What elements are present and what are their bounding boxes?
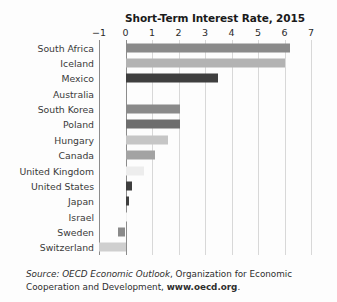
x-axis-tick-labels: −101234567 [99, 27, 311, 40]
x-tick-label: 3 [202, 27, 208, 38]
bar-row [99, 209, 311, 224]
x-tick-label: 4 [228, 27, 234, 38]
category-label: Hungary [7, 134, 99, 145]
source-url[interactable]: www.oecd.org [167, 282, 238, 292]
category-label: United Kingdom [7, 165, 99, 176]
category-label: Poland [7, 119, 99, 130]
bar-row [99, 240, 311, 255]
source-publication-title: OECD Economic Outlook [62, 269, 170, 279]
x-tick-label: 2 [175, 27, 181, 38]
bar[interactable] [126, 212, 127, 221]
bar[interactable] [126, 43, 290, 52]
bar[interactable] [126, 181, 133, 190]
bar-row [99, 71, 311, 86]
x-tick-label: 0 [122, 27, 128, 38]
bar[interactable] [126, 74, 219, 83]
bar[interactable] [126, 105, 180, 114]
bar[interactable] [126, 135, 168, 144]
category-label: Mexico [7, 73, 99, 84]
bar[interactable] [126, 59, 285, 68]
bar[interactable] [126, 166, 145, 175]
category-label: Australia [7, 88, 99, 99]
category-label-column: South AfricaIcelandMexicoAustraliaSouth … [0, 40, 99, 255]
bar-row [99, 86, 311, 101]
x-tick-label: 1 [149, 27, 155, 38]
bar-row [99, 178, 311, 193]
bar-rows [99, 40, 311, 255]
bar-row [99, 163, 311, 178]
x-tick-label: 6 [281, 27, 287, 38]
category-label: Sweden [7, 226, 99, 237]
bar[interactable] [126, 120, 180, 129]
category-label: South Africa [7, 42, 99, 53]
bar-row [99, 224, 311, 239]
category-label: United States [7, 180, 99, 191]
bar[interactable] [126, 151, 155, 160]
category-label: Israel [7, 211, 99, 222]
category-label: Switzerland [7, 242, 99, 253]
bar-row [99, 101, 311, 116]
source-suffix: . [237, 282, 240, 292]
gridline-7 [311, 40, 312, 255]
chart-title: Short-Term Interest Rate, 2015 [95, 12, 335, 24]
source-note: Source: OECD Economic Outlook, Organizat… [26, 268, 318, 294]
bar-row [99, 117, 311, 132]
bar[interactable] [118, 227, 126, 236]
category-label: Iceland [7, 58, 99, 69]
x-tick-label: 7 [308, 27, 314, 38]
bar-row [99, 132, 311, 147]
bar-row [99, 55, 311, 70]
x-tick-label: 5 [255, 27, 261, 38]
bar-row [99, 194, 311, 209]
category-label: South Korea [7, 104, 99, 115]
bar[interactable] [126, 197, 130, 206]
bar-row [99, 40, 311, 55]
plot-area [99, 40, 311, 255]
category-label: Canada [7, 150, 99, 161]
bar-row [99, 148, 311, 163]
chart-page: Short-Term Interest Rate, 2015 −10123456… [0, 0, 337, 302]
x-tick-label: −1 [92, 27, 106, 38]
bar[interactable] [99, 243, 126, 252]
category-label: Japan [7, 196, 99, 207]
source-prefix: Source: [26, 269, 59, 279]
